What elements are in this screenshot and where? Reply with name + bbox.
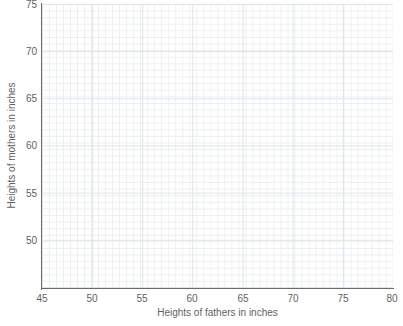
scatter-plot-chart: 75 70 65 60 55 50 45 50 55 60 65 70 75 8… [0, 0, 403, 326]
x-tick-label-60: 60 [186, 293, 197, 304]
x-tick-label-45: 45 [36, 293, 47, 304]
y-axis-title: Heights of mothers in inches [6, 66, 17, 226]
x-tick-label-70: 70 [287, 293, 298, 304]
x-tick-label-65: 65 [237, 293, 248, 304]
x-axis-tick-labels: 45 50 55 60 65 70 75 80 [0, 0, 403, 326]
x-tick-label-75: 75 [337, 293, 348, 304]
x-tick-label-55: 55 [136, 293, 147, 304]
x-tick-label-50: 50 [86, 293, 97, 304]
x-tick-label-80: 80 [386, 293, 397, 304]
x-axis-title: Heights of fathers in inches [42, 307, 393, 318]
